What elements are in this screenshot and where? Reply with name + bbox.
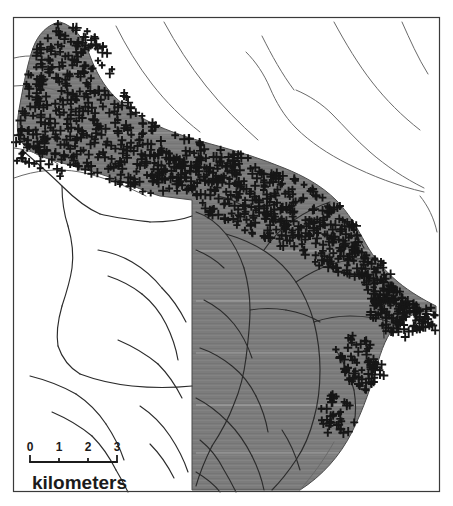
- scale-bar-tick-label: 2: [85, 440, 92, 454]
- scale-bar-tick-label: 3: [114, 440, 121, 454]
- scale-bar-tick-label: 1: [56, 440, 63, 454]
- map-canvas: 0123 kilometers: [0, 0, 453, 506]
- scale-bar-tick-label: 0: [27, 440, 34, 454]
- map-figure: 0123 kilometers: [0, 0, 453, 506]
- scale-bar-unit-label: kilometers: [32, 472, 127, 493]
